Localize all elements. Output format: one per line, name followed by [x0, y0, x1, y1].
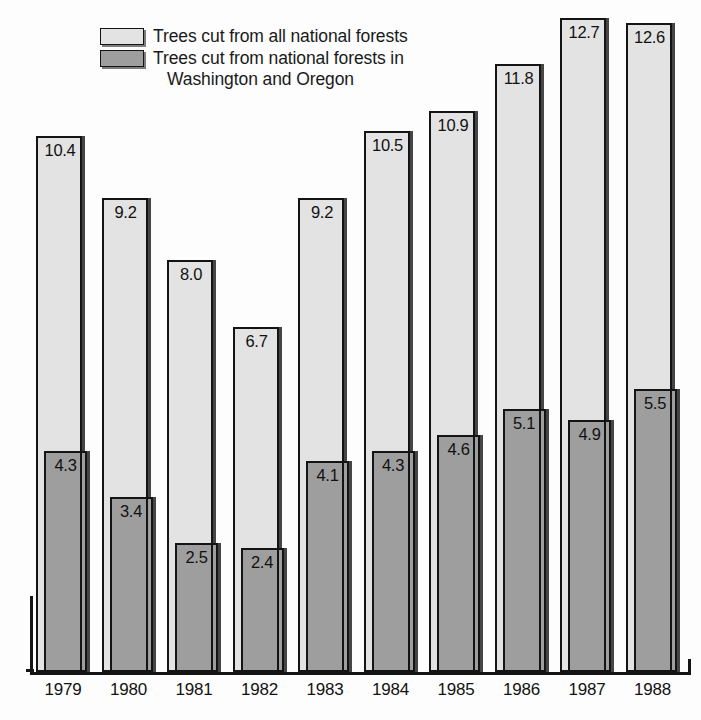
x-tick-label-1981: 1981 — [161, 680, 227, 700]
bar-group-1987: 12.74.9 — [560, 0, 614, 720]
bar-light-right-edge-1982 — [277, 327, 279, 672]
bar-value-label-light-1982: 6.7 — [235, 332, 277, 351]
x-tick-label-1988: 1988 — [620, 680, 686, 700]
bar-group-1981: 8.02.5 — [167, 0, 221, 720]
bar-value-label-light-1983: 9.2 — [300, 203, 342, 222]
plot-area: 10.44.39.23.48.02.56.72.49.24.110.54.310… — [0, 0, 701, 720]
bar-group-1983: 9.24.1 — [298, 0, 352, 720]
bar-value-label-light-1987: 12.7 — [562, 23, 604, 42]
bar-light-right-edge-1985 — [473, 111, 475, 672]
chart-figure: Trees cut from all national forests Tree… — [0, 0, 701, 720]
x-tick-label-1982: 1982 — [227, 680, 293, 700]
bar-light-right-edge-1984 — [408, 131, 410, 672]
x-axis-end-cap — [688, 659, 691, 675]
bar-light-right-edge-1987 — [604, 18, 606, 672]
x-tick-label-1984: 1984 — [358, 680, 424, 700]
x-tick-label-1979: 1979 — [30, 680, 96, 700]
bar-group-1980: 9.23.4 — [102, 0, 156, 720]
bar-light-right-edge-1980 — [146, 198, 148, 672]
bar-value-label-light-1985: 10.9 — [431, 116, 473, 135]
bar-group-1988: 12.65.5 — [626, 0, 680, 720]
x-tick-label-1986: 1986 — [489, 680, 555, 700]
bar-value-label-light-1979: 10.4 — [38, 141, 80, 160]
bar-value-label-light-1986: 11.8 — [497, 69, 539, 88]
x-tick-label-1985: 1985 — [423, 680, 489, 700]
bar-light-right-edge-1988 — [670, 23, 672, 672]
bar-value-label-light-1981: 8.0 — [169, 265, 211, 284]
bar-value-label-light-1980: 9.2 — [104, 203, 146, 222]
bar-light-right-edge-1981 — [211, 260, 213, 672]
bar-group-1982: 6.72.4 — [233, 0, 287, 720]
bar-value-label-light-1988: 12.6 — [628, 28, 670, 47]
bar-group-1979: 10.44.3 — [36, 0, 90, 720]
bar-light-right-edge-1986 — [539, 64, 541, 672]
bar-light-right-edge-1983 — [342, 198, 344, 672]
y-axis-stub — [30, 596, 33, 674]
bar-group-1985: 10.94.6 — [429, 0, 483, 720]
x-tick-label-1987: 1987 — [554, 680, 620, 700]
bar-light-right-edge-1979 — [80, 136, 82, 672]
x-tick-label-1980: 1980 — [96, 680, 162, 700]
bar-group-1984: 10.54.3 — [364, 0, 418, 720]
x-tick-label-1983: 1983 — [292, 680, 358, 700]
bar-value-label-light-1984: 10.5 — [366, 136, 408, 155]
bar-group-1986: 11.85.1 — [495, 0, 549, 720]
